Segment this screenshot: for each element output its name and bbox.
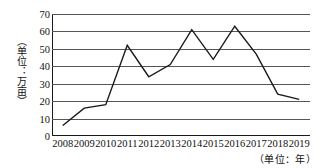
y-tick-label: 0: [45, 131, 50, 142]
y-tick-label: 60: [40, 26, 51, 37]
x-tick-label: 2013: [160, 138, 181, 150]
x-axis-title: （单位：年）: [254, 151, 316, 166]
line-chart: （单位：万亩） 010203040506070 2008200920102011…: [0, 0, 325, 168]
y-tick-label: 40: [40, 61, 51, 72]
x-tick-label: 2019: [289, 138, 310, 150]
x-tick-label: 2009: [74, 138, 95, 150]
y-tick-label: 50: [40, 43, 51, 54]
plot-area: [52, 14, 310, 136]
series-line: [52, 14, 310, 136]
x-tick-label: 2018: [267, 138, 288, 150]
x-axis-tick-labels: 2008200920102011201220132014201520162017…: [52, 138, 310, 152]
y-tick-label: 70: [40, 9, 51, 20]
x-tick-label: 2012: [138, 138, 159, 150]
y-tick-label: 30: [40, 78, 51, 89]
y-tick-label: 20: [40, 96, 51, 107]
x-tick-label: 2017: [246, 138, 267, 150]
x-tick-label: 2011: [117, 138, 138, 150]
x-tick-label: 2016: [224, 138, 245, 150]
y-tick-label: 10: [40, 113, 51, 124]
x-tick-label: 2015: [203, 138, 224, 150]
y-axis-tick-labels: 010203040506070: [28, 8, 50, 140]
y-axis-title: （单位：万亩）: [13, 8, 29, 134]
x-tick-label: 2014: [181, 138, 202, 150]
data-series-polyline: [63, 26, 300, 125]
x-tick-label: 2008: [52, 138, 73, 150]
x-tick-label: 2010: [95, 138, 116, 150]
